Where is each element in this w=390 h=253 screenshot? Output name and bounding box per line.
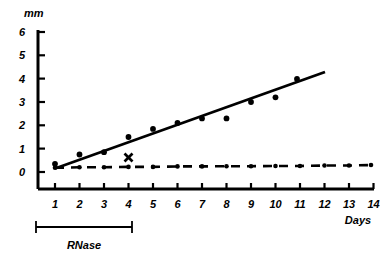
x-tick-label-3: 3 bbox=[101, 198, 107, 210]
x-tick-label-12: 12 bbox=[318, 198, 330, 210]
x-tick-label-1: 1 bbox=[52, 198, 58, 210]
control-point-7 bbox=[200, 164, 205, 169]
y-tick-label-4: 4 bbox=[18, 73, 25, 85]
control-point-3 bbox=[102, 165, 107, 170]
x-tick-label-10: 10 bbox=[269, 198, 282, 210]
control-point-8 bbox=[224, 164, 229, 169]
control-point-13 bbox=[347, 163, 352, 168]
growth-point-day8 bbox=[224, 116, 230, 122]
y-axis-label: mm bbox=[24, 7, 44, 19]
chart-background bbox=[0, 0, 390, 253]
growth-point-day1 bbox=[52, 161, 58, 167]
growth-scatter-chart: mm 6 5 4 3 2 1 0 bbox=[0, 0, 390, 253]
x-tick-label-4: 4 bbox=[124, 198, 131, 210]
x-tick-label-6: 6 bbox=[174, 198, 181, 210]
growth-point-day2 bbox=[77, 152, 83, 158]
x-tick-label-13: 13 bbox=[343, 198, 355, 210]
control-point-12 bbox=[322, 163, 327, 168]
growth-point-day9 bbox=[248, 99, 254, 105]
growth-point-day6 bbox=[175, 120, 181, 126]
control-point-14 bbox=[369, 163, 374, 168]
y-tick-label-3: 3 bbox=[19, 96, 25, 108]
y-tick-label-2: 2 bbox=[18, 119, 25, 131]
x-tick-label-14: 14 bbox=[367, 198, 379, 210]
y-tick-label-5: 5 bbox=[19, 49, 26, 61]
y-tick-label-0: 0 bbox=[19, 166, 26, 178]
y-tick-label-1: 1 bbox=[19, 143, 25, 155]
x-tick-label-9: 9 bbox=[248, 198, 255, 210]
chart-container: mm 6 5 4 3 2 1 0 bbox=[0, 0, 390, 253]
growth-point-day10 bbox=[273, 94, 279, 100]
control-point-5 bbox=[151, 165, 156, 170]
control-point-10 bbox=[273, 164, 278, 169]
growth-point-day5 bbox=[150, 126, 156, 132]
x-tick-label-5: 5 bbox=[150, 198, 157, 210]
x-tick-label-8: 8 bbox=[223, 198, 230, 210]
y-tick-label-6: 6 bbox=[19, 26, 26, 38]
x-tick-label-7: 7 bbox=[199, 198, 206, 210]
control-point-4 bbox=[126, 165, 131, 170]
growth-point-day4 bbox=[126, 134, 132, 140]
x-tick-label-11: 11 bbox=[294, 198, 305, 210]
growth-point-day7 bbox=[199, 116, 205, 122]
control-point-11 bbox=[298, 164, 303, 169]
control-point-2 bbox=[77, 165, 82, 170]
rnase-bracket-label: RNase bbox=[67, 239, 101, 251]
growth-point-day11 bbox=[294, 76, 300, 82]
control-point-6 bbox=[175, 164, 180, 169]
control-point-9 bbox=[249, 164, 254, 169]
growth-point-day3 bbox=[101, 149, 107, 155]
x-axis-label: Days bbox=[345, 214, 371, 226]
x-tick-label-2: 2 bbox=[75, 198, 82, 210]
